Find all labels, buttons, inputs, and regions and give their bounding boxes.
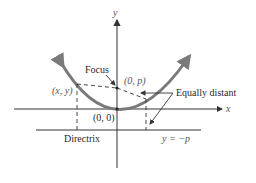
focus-point-label: (0, p) — [124, 76, 146, 86]
directrix-label: Directrix — [64, 134, 100, 144]
point-label: (x, y) — [52, 86, 73, 96]
vertex-label: (0, 0) — [93, 113, 115, 123]
x-axis-label: x — [226, 104, 230, 114]
focus-pointer-arrow — [106, 75, 115, 85]
dashed-focus-to-point — [117, 88, 146, 99]
equally-distant-label: Equally distant — [176, 88, 236, 98]
dashed-point-to-focus — [77, 84, 117, 88]
vertex-point — [116, 108, 119, 111]
parabola-curve — [60, 61, 186, 110]
focus-label: Focus — [85, 65, 109, 75]
directrix-equation-label: y = −p — [162, 134, 190, 144]
y-axis-label: y — [113, 8, 117, 18]
focus-point — [116, 87, 119, 90]
